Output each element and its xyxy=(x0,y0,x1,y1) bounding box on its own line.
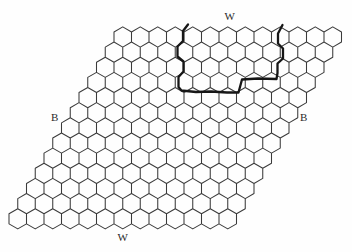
label-black-left: B xyxy=(45,110,65,124)
label-black-right: B xyxy=(294,110,314,124)
label-white-top: W xyxy=(220,9,240,23)
label-white-bottom: W xyxy=(113,230,133,244)
hex-grid-cells xyxy=(9,27,342,229)
hex-board-figure: W W B B xyxy=(0,0,352,252)
hex-grid-svg xyxy=(0,0,352,252)
